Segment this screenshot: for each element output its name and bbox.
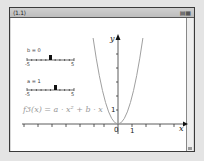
slider-a-thumb[interactable] [54, 85, 57, 90]
y-axis-arrow-icon [116, 34, 121, 40]
x-axis-arrow-icon [183, 122, 188, 127]
y-axis [116, 38, 118, 134]
slider-a[interactable] [27, 88, 74, 91]
graph-svg [0, 0, 204, 161]
slider-b-thumb[interactable] [49, 55, 52, 60]
x-axis [22, 124, 183, 127]
